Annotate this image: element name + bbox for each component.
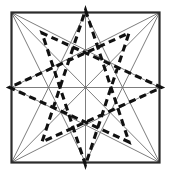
figure-container xyxy=(0,0,171,173)
geometric-figure xyxy=(0,0,171,173)
thin-lines-group xyxy=(12,13,160,163)
